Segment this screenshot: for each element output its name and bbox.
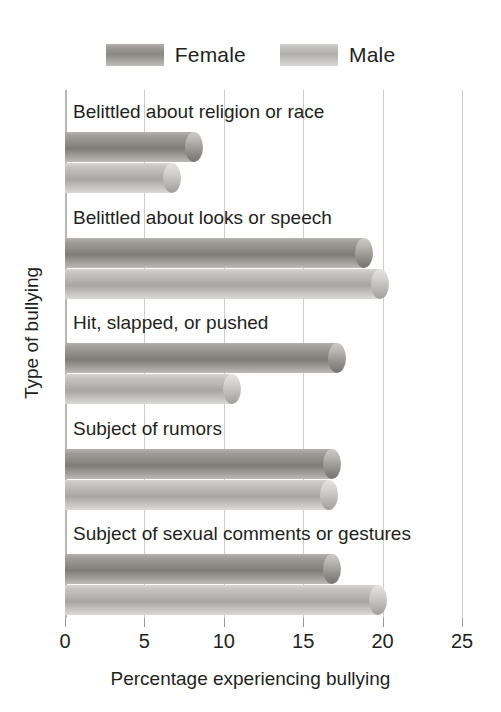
bar-body: [65, 269, 380, 299]
bar-body: [65, 132, 194, 162]
x-tick: [144, 618, 145, 627]
x-tick: [383, 618, 384, 627]
bar-male: [65, 269, 389, 299]
legend-label-male: Male: [349, 43, 395, 67]
category-label: Subject of sexual comments or gestures: [73, 520, 411, 548]
bar-female: [65, 554, 341, 584]
x-tick-label: 25: [451, 630, 473, 653]
bar-female: [65, 449, 341, 479]
bar-female: [65, 238, 373, 268]
bar-female: [65, 132, 203, 162]
bar-body: [65, 238, 364, 268]
bar-end-cap: [355, 238, 373, 268]
bar-group: Hit, slapped, or pushed: [65, 301, 462, 407]
x-tick: [65, 618, 66, 627]
x-tick-label: 5: [139, 630, 150, 653]
bar-body: [65, 374, 232, 404]
x-tick-label: 10: [213, 630, 235, 653]
x-tick-label: 0: [59, 630, 70, 653]
category-label: Belittled about looks or speech: [73, 204, 332, 232]
bar-group: Belittled about religion or race: [65, 90, 462, 196]
x-tick: [303, 618, 304, 627]
x-tick: [224, 618, 225, 627]
bar-body: [65, 343, 337, 373]
category-label: Subject of rumors: [73, 415, 222, 443]
bar-end-cap: [323, 554, 341, 584]
bar-end-cap: [323, 449, 341, 479]
x-axis: 0510152025: [65, 618, 462, 619]
bar-end-cap: [371, 269, 389, 299]
bar-female: [65, 343, 346, 373]
bar-male: [65, 480, 338, 510]
bar-group: Subject of sexual comments or gestures: [65, 512, 462, 618]
y-axis-title: Type of bullying: [21, 183, 43, 483]
bar-body: [65, 449, 332, 479]
legend-item-female: Female: [106, 43, 246, 67]
x-tick: [462, 618, 463, 627]
gridline-25: [462, 90, 463, 618]
bar-group: Subject of rumors: [65, 407, 462, 513]
chart-legend: Female Male: [0, 38, 501, 72]
legend-label-female: Female: [175, 43, 246, 67]
bar-end-cap: [328, 343, 346, 373]
x-tick-label: 20: [371, 630, 393, 653]
bar-end-cap: [320, 480, 338, 510]
bar-male: [65, 163, 181, 193]
category-label: Hit, slapped, or pushed: [73, 309, 268, 337]
bar-end-cap: [185, 132, 203, 162]
x-axis-title: Percentage experiencing bullying: [0, 668, 501, 690]
bar-male: [65, 374, 241, 404]
bar-body: [65, 554, 332, 584]
female-swatch-icon: [106, 44, 164, 66]
legend-item-male: Male: [280, 43, 395, 67]
bar-male: [65, 585, 387, 615]
bar-end-cap: [369, 585, 387, 615]
male-swatch-icon: [280, 44, 338, 66]
plot-area: Belittled about religion or raceBelittle…: [65, 90, 462, 618]
bar-group: Belittled about looks or speech: [65, 196, 462, 302]
bar-end-cap: [223, 374, 241, 404]
bar-body: [65, 163, 172, 193]
bar-end-cap: [163, 163, 181, 193]
bar-body: [65, 585, 378, 615]
x-tick-label: 15: [292, 630, 314, 653]
bar-body: [65, 480, 329, 510]
category-label: Belittled about religion or race: [73, 98, 324, 126]
